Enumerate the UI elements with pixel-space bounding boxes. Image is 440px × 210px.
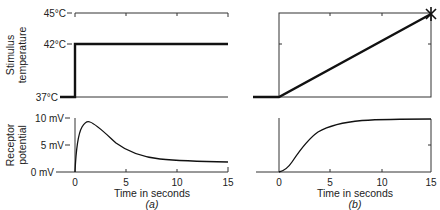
receptor-potential-curve-a — [75, 122, 228, 172]
panel-label-a: (a) — [146, 198, 159, 210]
top-y-ticks: 45°C 42°C 37°C — [36, 8, 72, 103]
top-ylabel: Stimulus temperature — [4, 27, 28, 84]
svg-text:0 mV: 0 mV — [31, 167, 55, 178]
panel-label-b: (b) — [349, 198, 362, 210]
figure: Stimulus temperature Receptor potential … — [0, 0, 440, 210]
panel-a-bottom: 0 5 10 15 Time in seconds (a) — [56, 118, 234, 210]
svg-text:45°C: 45°C — [44, 8, 66, 19]
svg-text:15: 15 — [222, 177, 234, 188]
svg-text:Stimulus: Stimulus — [4, 35, 16, 75]
bottom-y-ticks: 10 mV 5 mV 0 mV — [31, 113, 70, 178]
svg-text:0: 0 — [72, 177, 78, 188]
stimulus-ramp-line — [253, 14, 431, 97]
stimulus-step-line — [60, 44, 228, 97]
panel-b-top — [253, 7, 436, 97]
chart-svg: Stimulus temperature Receptor potential … — [0, 0, 440, 210]
panel-b-bottom: 0 5 10 15 Time in seconds (b) — [256, 118, 437, 210]
svg-text:15: 15 — [425, 177, 437, 188]
svg-text:10 mV: 10 mV — [35, 113, 64, 124]
svg-text:Receptor: Receptor — [4, 123, 16, 166]
asterisk-marker — [426, 7, 436, 21]
svg-text:42°C: 42°C — [44, 39, 66, 50]
svg-text:37°C: 37°C — [36, 92, 58, 103]
svg-text:temperature: temperature — [16, 27, 28, 84]
svg-text:5 mV: 5 mV — [41, 140, 65, 151]
panel-a-top — [60, 13, 228, 97]
bottom-ylabel: Receptor potential — [4, 123, 28, 166]
receptor-potential-curve-b — [279, 119, 431, 172]
svg-text:potential: potential — [16, 125, 28, 165]
svg-text:0: 0 — [276, 177, 282, 188]
